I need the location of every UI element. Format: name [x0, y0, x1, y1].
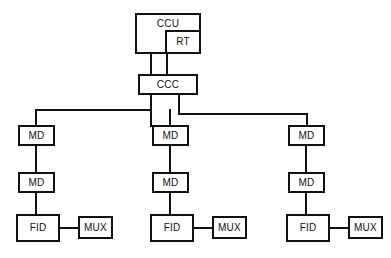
- node-md-lower-3-label: MD: [299, 178, 315, 188]
- link-fid-mux-3: [330, 227, 349, 229]
- node-md-lower-1-label: MD: [29, 178, 45, 188]
- node-rt[interactable]: RT: [165, 30, 201, 54]
- node-md-lower-1[interactable]: MD: [18, 172, 55, 193]
- node-mux-1-label: MUX: [84, 223, 107, 233]
- node-fid-2[interactable]: FID: [150, 214, 194, 242]
- node-md-upper-3-label: MD: [299, 131, 315, 141]
- node-rt-label: RT: [176, 37, 190, 47]
- link-md-lower-fid-1: [35, 193, 37, 214]
- link-md-upper-md-lower-3: [305, 146, 307, 172]
- node-md-lower-2-label: MD: [163, 178, 179, 188]
- node-fid-2-label: FID: [164, 223, 181, 233]
- bus-drop-right: [178, 95, 180, 113]
- node-mux-3-label: MUX: [354, 223, 377, 233]
- node-fid-3[interactable]: FID: [286, 214, 330, 242]
- node-mux-2-label: MUX: [218, 223, 241, 233]
- node-fid-3-label: FID: [300, 223, 317, 233]
- node-md-lower-3[interactable]: MD: [288, 172, 325, 193]
- node-md-upper-2-label: MD: [163, 131, 179, 141]
- bus-horizontal-right: [178, 113, 308, 115]
- link-ccu-ccc-right: [166, 53, 168, 75]
- node-ccc-label: CCC: [157, 80, 179, 90]
- node-fid-1-label: FID: [30, 223, 47, 233]
- block-diagram: CCU RT CCC MD MD FID MUX MD MD: [0, 0, 391, 258]
- bus-drop-left: [150, 95, 152, 127]
- link-fid-mux-1: [60, 227, 79, 229]
- link-md-upper-md-lower-2: [169, 146, 171, 172]
- link-md-lower-fid-2: [169, 193, 171, 214]
- node-md-upper-1[interactable]: MD: [18, 125, 55, 146]
- node-md-upper-2[interactable]: MD: [152, 125, 189, 146]
- link-ccu-ccc-left: [150, 53, 152, 75]
- node-md-upper-3[interactable]: MD: [288, 125, 325, 146]
- link-md-lower-fid-3: [305, 193, 307, 214]
- node-ccu-label: CCU: [157, 19, 179, 29]
- link-fid-mux-2: [194, 227, 213, 229]
- node-mux-2[interactable]: MUX: [212, 216, 247, 239]
- node-md-upper-1-label: MD: [29, 131, 45, 141]
- link-md-upper-md-lower-1: [35, 146, 37, 172]
- node-ccc[interactable]: CCC: [138, 74, 198, 95]
- node-mux-1[interactable]: MUX: [78, 216, 113, 239]
- node-fid-1[interactable]: FID: [16, 214, 60, 242]
- bus-horizontal-left: [35, 109, 152, 111]
- node-mux-3[interactable]: MUX: [348, 216, 383, 239]
- node-md-lower-2[interactable]: MD: [152, 172, 189, 193]
